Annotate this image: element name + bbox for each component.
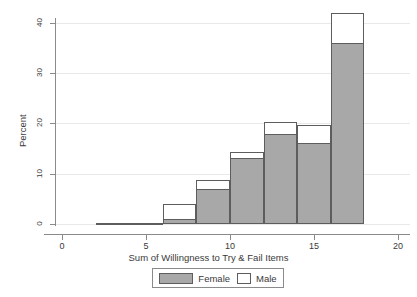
bar-female-6-8 (163, 219, 197, 224)
legend-item-female: Female (159, 273, 230, 284)
female-swatch-icon (159, 273, 193, 284)
legend: Female Male (152, 268, 284, 288)
legend-item-male: Male (237, 273, 277, 284)
histogram-figure: Percent 40 30 20 10 0 0 5 10 15 20 Sum o… (0, 0, 417, 297)
x-axis-title: Sum of Willingness to Try & Fail Items (0, 252, 417, 263)
legend-label-male: Male (256, 273, 277, 284)
bar-female-14-16 (297, 143, 331, 224)
bar-female-4-6 (129, 223, 163, 225)
bar-female-8-10 (196, 189, 230, 224)
bar-female-2-4 (96, 223, 130, 225)
bar-female-16-18 (331, 43, 365, 224)
legend-label-female: Female (198, 273, 230, 284)
bar-female-12-14 (264, 134, 298, 224)
male-swatch-icon (237, 273, 251, 284)
bar-female-10-12 (230, 158, 264, 224)
